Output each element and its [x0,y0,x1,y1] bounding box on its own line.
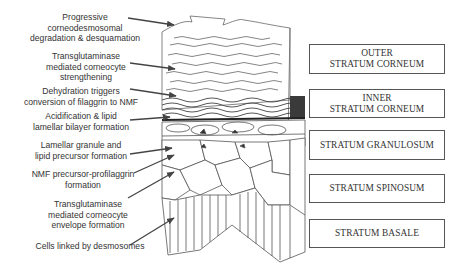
label-line: Dehydration triggers [18,86,144,97]
label-lamellar-granule: Lamellar granule and lipid precursor for… [28,140,134,161]
label-line: Cells linked by desmosomes [28,241,152,252]
label-line: NMF precursor-profilaggrin [28,169,138,180]
layer-label-line: STRATUM CORNEUM [330,104,424,115]
layer-label-line: STRATUM SPINOSUM [329,183,424,194]
label-line: strengthening [36,72,136,83]
label-line: lipid precursor formation [28,151,134,162]
layer-label-line: OUTER [361,48,393,59]
label-dehydration: Dehydration triggers conversion of filag… [18,86,144,107]
label-line: degradation & desquamation [25,33,145,44]
layer-label-line: STRATUM BASALE [335,228,419,239]
layer-label-line: INNER [362,93,391,104]
label-line: mediated corneocyte [36,62,136,73]
layer-box-inner-stratum-corneum: INNER STRATUM CORNEUM [309,89,445,118]
layer-label-line: STRATUM CORNEUM [330,59,424,70]
label-line: envelope formation [38,220,138,231]
label-acidification: Acidification & lipid lamellar bilayer f… [28,111,134,132]
layer-box-outer-stratum-corneum: OUTER STRATUM CORNEUM [309,44,445,74]
label-line: lamellar bilayer formation [28,122,134,133]
label-line: conversion of filaggrin to NMF [18,97,144,108]
label-tg-envelope: Transglutaminase mediated corneocyte env… [38,199,138,231]
label-line: corneodesmosomal [25,23,145,34]
label-desmosomes: Cells linked by desmosomes [28,241,152,252]
label-line: formation [28,180,138,191]
label-tg-strengthening: Transglutaminase mediated corneocyte str… [36,51,136,83]
label-line: Transglutaminase [38,199,138,210]
label-nmf-precursor: NMF precursor-profilaggrin formation [28,169,138,190]
label-line: Transglutaminase [36,51,136,62]
layer-box-stratum-granulosum: STRATUM GRANULOSUM [309,130,445,160]
label-line: Lamellar granule and [28,140,134,151]
label-desquamation: Progressive corneodesmosomal degradation… [25,12,145,44]
layer-box-stratum-basale: STRATUM BASALE [309,219,445,248]
label-line: mediated corneocyte [38,210,138,221]
layer-box-stratum-spinosum: STRATUM SPINOSUM [309,174,445,203]
label-line: Acidification & lipid [28,111,134,122]
label-line: Progressive [25,12,145,23]
layer-label-line: STRATUM GRANULOSUM [320,140,434,151]
